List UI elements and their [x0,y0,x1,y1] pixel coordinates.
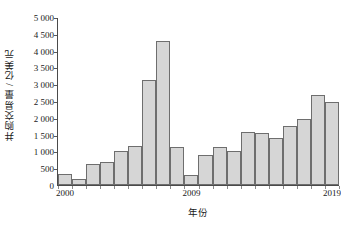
y-tick-label: 3 000 [16,81,54,90]
y-tick-mark [54,152,57,153]
bar [325,102,339,186]
x-axis-tick-labels: 200020092019 [57,189,339,203]
bar [72,179,86,185]
y-tick-mark [54,52,57,53]
bar-series [58,18,339,185]
bar [283,126,297,185]
bar [213,147,227,185]
bar [227,151,241,185]
bar [269,138,283,185]
bar [297,119,311,185]
y-tick-mark [54,119,57,120]
x-tick-label: 2019 [323,189,341,198]
plot-area [57,18,339,186]
y-tick-label: 2 000 [16,114,54,123]
y-tick-label: 4 500 [16,30,54,39]
y-tick-label: 500 [16,165,54,174]
y-tick-mark [54,68,57,69]
bar [241,132,255,185]
y-tick-label: 0 [16,182,54,191]
y-tick-label: 5 000 [16,14,54,23]
y-tick-label: 4 000 [16,47,54,56]
bar [198,155,212,185]
y-axis-tick-labels: 05001 0001 5002 0002 5003 0003 5004 0004… [16,18,54,186]
bar [156,41,170,185]
bar [86,164,100,185]
x-axis-title: 年份 [57,205,339,219]
bar [128,146,142,185]
y-tick-mark [54,85,57,86]
y-axis-title-text: 并购交易量 / 亿美元 [6,49,16,141]
bar [100,162,114,185]
bar [184,175,198,185]
y-tick-mark [54,169,57,170]
y-tick-mark [54,18,57,19]
y-tick-label: 1 000 [16,148,54,157]
x-tick-label: 2009 [182,189,200,198]
x-tick-label: 2000 [56,189,74,198]
bar [142,80,156,185]
bar [58,174,72,185]
y-tick-label: 3 500 [16,64,54,73]
y-tick-label: 1 500 [16,131,54,140]
bar [255,133,269,185]
bar [170,147,184,185]
y-tick-mark [54,102,57,103]
bar [114,151,128,185]
y-tick-label: 2 500 [16,98,54,107]
y-tick-mark [54,136,57,137]
bar [311,95,325,185]
y-tick-mark [54,35,57,36]
